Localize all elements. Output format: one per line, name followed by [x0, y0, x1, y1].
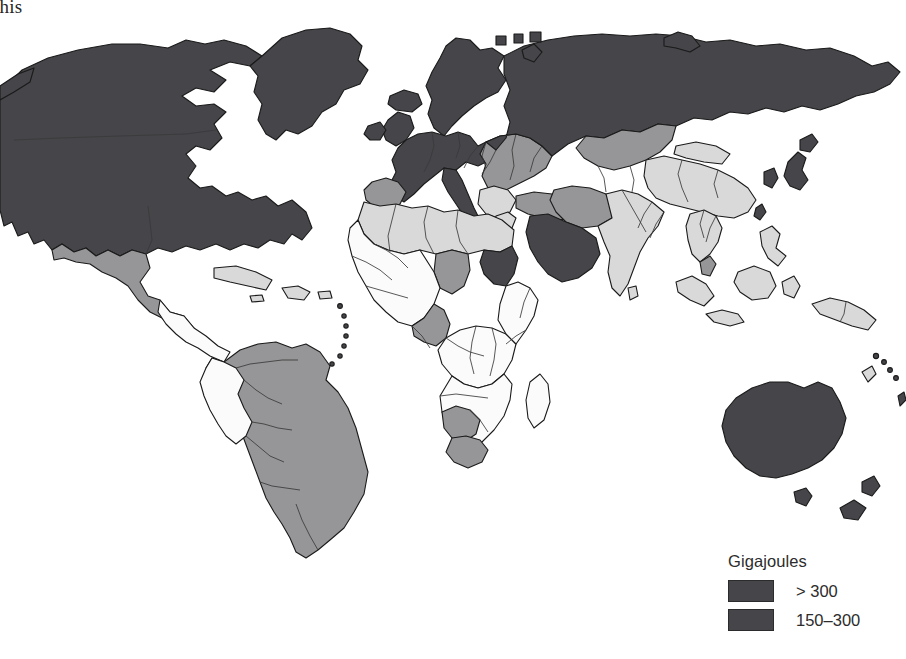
region-japan-north	[800, 134, 818, 152]
region-hispaniola	[282, 286, 310, 300]
region-arctic-island-c	[530, 32, 541, 42]
region-sulawesi	[782, 276, 800, 298]
region-caribbean-cuba	[214, 266, 272, 290]
region-madagascar	[526, 374, 550, 428]
region-scandinavia	[426, 38, 506, 136]
legend-swatch-150-300	[728, 609, 774, 631]
region-arctic-island-a	[496, 36, 506, 45]
region-jamaica	[250, 295, 264, 302]
legend-item-150-300: 150–300	[728, 609, 906, 631]
region-central-america	[158, 300, 230, 362]
region-tasmania	[794, 488, 812, 506]
legend-label-150-300: 150–300	[796, 611, 860, 630]
legend-label-over-300: > 300	[796, 582, 838, 601]
region-indochina	[686, 210, 722, 262]
map-page: this	[0, 0, 906, 659]
region-japan	[784, 152, 808, 190]
legend-title: Gigajoules	[728, 552, 906, 571]
south-america-group	[200, 342, 368, 558]
region-sumatra	[676, 276, 714, 306]
africa-group	[348, 202, 550, 468]
north-america-group	[0, 28, 422, 370]
region-new-zealand-north	[862, 476, 880, 496]
region-sri-lanka	[628, 286, 638, 300]
region-java	[706, 310, 744, 326]
russia-asia-group	[486, 34, 900, 330]
legend-swatch-over-300	[728, 580, 774, 602]
region-philippines	[760, 226, 786, 266]
region-iceland	[388, 90, 422, 112]
region-new-zealand-south	[840, 500, 866, 520]
region-ireland	[364, 122, 386, 140]
region-korea	[764, 168, 778, 188]
legend-item-over-300: > 300	[728, 580, 906, 602]
region-puerto-rico	[318, 291, 332, 299]
region-borneo	[734, 266, 776, 300]
region-taiwan	[754, 204, 766, 220]
pacific-island-dots	[873, 353, 906, 406]
region-new-caledonia	[862, 366, 876, 382]
map-legend: Gigajoules > 300 150–300	[728, 552, 906, 638]
region-egypt	[480, 246, 518, 286]
region-arctic-island-b	[514, 34, 523, 43]
oceania-group	[722, 353, 906, 520]
region-australia	[722, 382, 846, 478]
region-greenland	[250, 28, 368, 140]
region-russia	[486, 34, 900, 156]
